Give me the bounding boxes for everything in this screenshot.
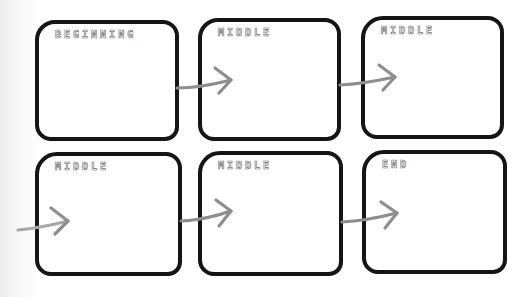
box-label: MIDDLE — [55, 161, 109, 172]
box-beginning: BEGINNING — [35, 20, 179, 141]
box-label: MIDDLE — [218, 160, 272, 171]
box-label: END — [382, 159, 409, 170]
box-label: MIDDLE — [381, 25, 435, 36]
box-middle-2: MIDDLE — [361, 16, 504, 139]
box-middle-3: MIDDLE — [35, 152, 182, 276]
box-end: END — [362, 150, 507, 274]
box-label: BEGINNING — [55, 29, 136, 40]
box-middle-4: MIDDLE — [198, 151, 343, 276]
box-label: MIDDLE — [218, 27, 272, 38]
box-middle-1: MIDDLE — [198, 18, 341, 141]
